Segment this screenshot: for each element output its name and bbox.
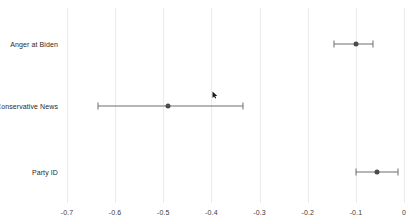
plot-area: -0.7-0.6-0.5-0.4-0.3-0.2-0.10Anger at Bi… xyxy=(0,0,417,224)
x-axis-tick-label: -0.1 xyxy=(350,209,362,216)
coefficient-plot: -0.7-0.6-0.5-0.4-0.3-0.2-0.10Anger at Bi… xyxy=(0,0,417,224)
gridline xyxy=(404,8,405,203)
category-label: Party ID xyxy=(32,169,58,176)
gridline xyxy=(260,8,261,203)
error-bar-cap xyxy=(98,103,99,110)
gridline xyxy=(67,8,68,203)
x-axis-tick-label: -0.7 xyxy=(61,209,73,216)
x-axis-tick-label: -0.3 xyxy=(253,209,265,216)
estimate-point-marker xyxy=(166,104,171,109)
mouse-cursor-icon xyxy=(212,91,218,99)
estimate-point-marker xyxy=(375,170,380,175)
error-bar-cap xyxy=(242,103,243,110)
x-axis-tick-label: -0.2 xyxy=(301,209,313,216)
error-bar-cap xyxy=(372,41,373,48)
error-bar-cap xyxy=(334,41,335,48)
x-axis-tick-label: -0.4 xyxy=(205,209,217,216)
estimate-point-marker xyxy=(353,42,358,47)
x-axis-tick-label: -0.5 xyxy=(157,209,169,216)
x-axis-tick-label: -0.6 xyxy=(109,209,121,216)
category-label: Conservative News xyxy=(0,103,58,110)
x-axis-tick-label: 0 xyxy=(402,209,406,216)
gridline xyxy=(308,8,309,203)
error-bar-cap xyxy=(398,169,399,176)
category-label: Anger at Biden xyxy=(10,41,58,48)
error-bar-cap xyxy=(355,169,356,176)
